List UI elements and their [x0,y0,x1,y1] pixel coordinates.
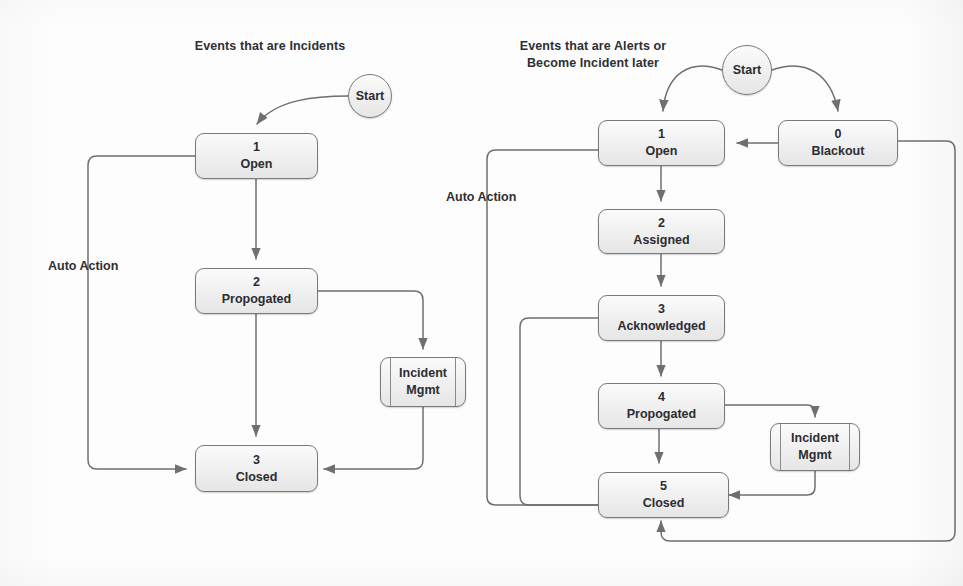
state-label: Assigned [633,232,689,249]
state-number: 5 [660,478,667,495]
subroutine-label-line1: Incident [399,365,447,382]
state-node-closed-incidents: 3 Closed [195,445,318,492]
diagram-canvas: Events that are Incidents Start 1 Open 2… [0,0,963,586]
subroutine-right-bar [849,424,850,470]
state-label: Blackout [812,143,865,160]
edge-incidentmgmt-to-closed-left [324,406,423,469]
subroutine-left-bar [390,358,391,406]
state-number: 1 [253,139,260,156]
edge-start-to-open-right [663,66,722,111]
state-label: Propogated [222,291,291,308]
state-number: 3 [658,301,665,318]
state-node-open-alerts: 1 Open [598,120,725,166]
state-node-acknowledged-alerts: 3 Acknowledged [598,295,725,341]
subroutine-label-line2: Mgmt [406,382,439,399]
state-number: 2 [658,215,665,232]
start-node-label-incidents: Start [356,88,384,105]
subroutine-label-line2: Mgmt [798,447,831,464]
subroutine-left-bar [780,424,781,470]
edge-start-to-blackout-right [772,66,838,111]
connector-layer [0,0,963,586]
state-number: 1 [658,126,665,143]
start-node-alerts: Start [722,45,772,95]
edge-propogated-to-incidentmgmt-right [725,405,815,417]
edge-label-auto-action-alerts: Auto Action [446,190,516,204]
state-node-blackout-alerts: 0 Blackout [778,120,898,166]
state-label: Acknowledged [617,318,705,335]
state-node-propogated-alerts: 4 Propogated [598,383,725,429]
state-label: Open [646,143,678,160]
state-node-propogated-incidents: 2 Propogated [195,268,318,314]
edge-propogated-to-incidentmgmt-left [315,291,423,349]
state-label: Open [241,156,273,173]
edge-label-auto-action-incidents: Auto Action [48,259,118,273]
state-label: Propogated [627,406,696,423]
state-number: 0 [835,126,842,143]
start-node-incidents: Start [348,74,392,118]
subroutine-node-incident-mgmt-incidents: Incident Mgmt [380,357,466,407]
state-node-assigned-alerts: 2 Assigned [598,209,725,254]
edge-open-to-closed-autoaction-left [88,156,195,469]
state-number: 3 [253,452,260,469]
state-number: 2 [253,274,260,291]
subroutine-node-incident-mgmt-alerts: Incident Mgmt [770,423,860,471]
edge-start-to-open-left [257,96,348,124]
subroutine-label-line1: Incident [791,430,839,447]
state-node-open-incidents: 1 Open [195,133,318,179]
state-label: Closed [643,495,685,512]
state-label: Closed [236,469,278,486]
diagram-title-alerts: Events that are Alerts or Become Inciden… [493,38,693,72]
state-node-closed-alerts: 5 Closed [598,472,729,518]
diagram-title-incidents: Events that are Incidents [150,38,390,55]
edge-incidentmgmt-to-closed-right [729,470,815,495]
state-number: 4 [658,389,665,406]
subroutine-right-bar [455,358,456,406]
start-node-label-alerts: Start [733,62,761,79]
